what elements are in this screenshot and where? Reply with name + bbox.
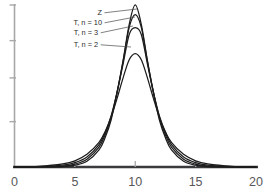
series-label-z: Z — [97, 8, 102, 17]
x-axis-tick-label: 20 — [249, 175, 263, 189]
distribution-curves — [15, 5, 257, 167]
series-label-t-n-3: T, n = 3 — [74, 28, 98, 37]
curve-t-n-10 — [15, 15, 257, 167]
series-label-t-n-10: T, n = 10 — [74, 18, 103, 27]
series-annotation-labels: ZT, n = 10T, n = 3T, n = 2 — [74, 8, 103, 49]
distribution-comparison-chart: ZT, n = 10T, n = 3T, n = 2 05101520 — [0, 0, 269, 195]
curve-z — [15, 5, 257, 167]
figure-container: ZT, n = 10T, n = 3T, n = 2 05101520 — [0, 0, 269, 195]
x-axis-tick-label: 15 — [189, 175, 203, 189]
curve-t-n-2 — [15, 54, 257, 167]
caption-fragment — [6, 184, 156, 193]
curve-t-n-3 — [15, 28, 257, 167]
series-label-t-n-2: T, n = 2 — [74, 40, 98, 49]
